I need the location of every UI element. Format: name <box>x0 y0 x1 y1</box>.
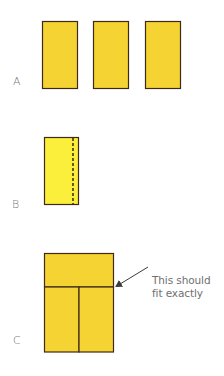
annotation-line-2: fit exactly <box>152 287 210 300</box>
panel-a-shapes <box>43 22 181 89</box>
panel-b-shapes <box>45 138 79 205</box>
panel-a-rectangle-3 <box>146 22 181 89</box>
panel-c-label: C <box>13 335 21 346</box>
panel-a-label: A <box>13 76 21 87</box>
panel-c-left-rectangle <box>45 287 80 352</box>
diagram-canvas <box>0 0 224 376</box>
figure: A B C This should fit exactly <box>0 0 224 376</box>
panel-a-rectangle-2 <box>94 22 129 89</box>
panel-c-arrow-icon <box>116 267 148 287</box>
panel-c-annotation: This should fit exactly <box>152 274 210 300</box>
panel-b-label: B <box>12 199 19 210</box>
panel-c-horizontal-rectangle <box>45 254 114 288</box>
annotation-line-1: This should <box>152 274 210 287</box>
panel-a-rectangle-1 <box>43 22 78 89</box>
panel-c-right-rectangle <box>79 287 114 352</box>
panel-c-shapes <box>45 254 149 353</box>
